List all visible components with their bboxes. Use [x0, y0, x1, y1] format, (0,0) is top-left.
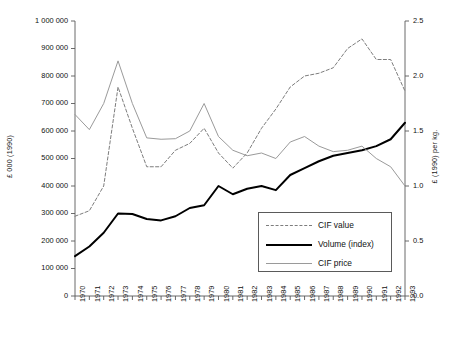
legend-label-cif-price: CIF price [318, 258, 352, 268]
legend-label-volume-index: Volume (index) [318, 239, 374, 249]
legend-label-cif-value: CIF value [318, 220, 354, 230]
thick-solid-line-swatch [266, 239, 312, 249]
plot-area [0, 0, 454, 340]
chart-legend: CIF value Volume (index) CIF price [258, 212, 392, 272]
series-line-cif-price [75, 61, 405, 186]
dashed-line-swatch [266, 220, 312, 230]
legend-item-volume-index: Volume (index) [259, 234, 393, 254]
series-line-cif-value [75, 39, 405, 216]
legend-item-cif-value: CIF value [259, 215, 393, 235]
thin-solid-line-swatch [266, 258, 312, 268]
legend-item-cif-price: CIF price [259, 253, 393, 273]
chart-container: £ 000 (1990) £ (1990) per kg. 1 000 0009… [0, 0, 454, 340]
